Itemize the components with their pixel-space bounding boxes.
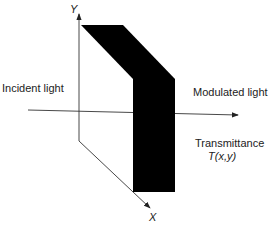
incident-light-label: Incident light: [2, 83, 64, 94]
diagram-graphics: [0, 0, 271, 232]
x-axis-label: X: [149, 212, 156, 223]
block-top-face: [81, 25, 175, 79]
y-axis-label: Y: [70, 4, 77, 15]
modulated-light-label: Modulated light: [193, 87, 268, 98]
block-front-face: [133, 79, 175, 192]
transmittance-label: Transmittance: [195, 138, 264, 149]
transmittance-function-label: T(x,y): [208, 151, 236, 162]
diagram: Y X Incident light Modulated light Trans…: [0, 0, 271, 232]
